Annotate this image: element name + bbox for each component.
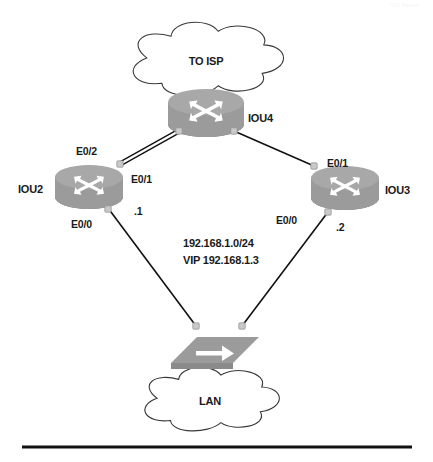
diagram-canvas: TO ISPLANIOU4IOU2IOU3E0/2E0/1E0/0.1E0/1E… (0, 0, 433, 462)
links-layer (108, 129, 328, 326)
interface-label-iou3-ip: .2 (336, 221, 344, 233)
devices-layer (55, 22, 379, 431)
interface-label-iou3-e0-1: E0/1 (327, 157, 348, 169)
dot-sw-left (193, 323, 199, 329)
network-topology-svg (0, 0, 433, 462)
dot-iou4-left (176, 128, 182, 134)
dot-iou3-e01 (311, 163, 317, 169)
network-label-vip: VIP 192.168.1.3 (183, 254, 259, 266)
link-iou3-sw1 (242, 212, 328, 326)
interface-label-iou3-e0-0: E0/0 (276, 214, 297, 226)
cloud-label-isp: TO ISP (189, 55, 224, 67)
router-iou2[interactable] (55, 165, 123, 209)
interface-label-iou2-e0-2: E0/2 (76, 145, 97, 157)
link-iou4-iou3 (234, 131, 314, 166)
router-label-iou3: IOU3 (385, 184, 410, 196)
switch-sw1[interactable] (171, 337, 259, 369)
cloud-label-lan: LAN (199, 395, 221, 407)
dot-iou3-e00 (325, 209, 331, 215)
router-label-iou2: IOU2 (18, 183, 43, 195)
interface-label-iou2-e0-1: E0/1 (131, 173, 152, 185)
router-label-iou4: IOU4 (248, 112, 273, 124)
interface-label-iou2-e0-0: E0/0 (71, 218, 92, 230)
page-watermark: IOS Basics (390, 2, 419, 8)
link-iou2-iou4 (119, 129, 180, 165)
dot-iou4-right (231, 128, 237, 134)
link-iou2-sw1 (108, 208, 196, 326)
dot-iou2-e00 (105, 206, 111, 212)
dot-sw-right (239, 323, 245, 329)
dot-iou2-e01 (117, 161, 123, 167)
router-iou3[interactable] (311, 166, 379, 210)
network-label-subnet: 192.168.1.0/24 (183, 237, 254, 249)
interface-label-iou2-ip: .1 (134, 205, 142, 217)
